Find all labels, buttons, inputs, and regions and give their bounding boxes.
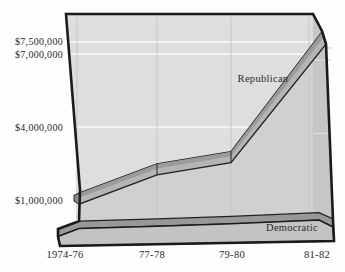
x-axis-tick-label: 77-78 <box>139 249 165 260</box>
chart-canvas: $7,500,000$7,000,000$4,000,000$1,000,000… <box>0 0 345 272</box>
republican-series-label: Republican <box>238 73 289 84</box>
y-axis-tick-label: $7,500,000 <box>15 36 63 47</box>
y-axis-tick-label: $7,000,000 <box>15 49 63 60</box>
republican-ribbon-end-cap <box>74 193 79 204</box>
x-axis-tick-label: 81-82 <box>304 249 330 260</box>
y-axis-tick-label: $1,000,000 <box>15 195 63 206</box>
democratic-series-label: Democratic <box>266 222 318 233</box>
fundraising-3d-ribbon-chart: $7,500,000$7,000,000$4,000,000$1,000,000… <box>0 0 345 272</box>
x-axis-tick-label: 1974-76 <box>46 249 83 260</box>
y-axis-tick-label: $4,000,000 <box>15 122 63 133</box>
x-axis-tick-label: 79-80 <box>219 249 245 260</box>
